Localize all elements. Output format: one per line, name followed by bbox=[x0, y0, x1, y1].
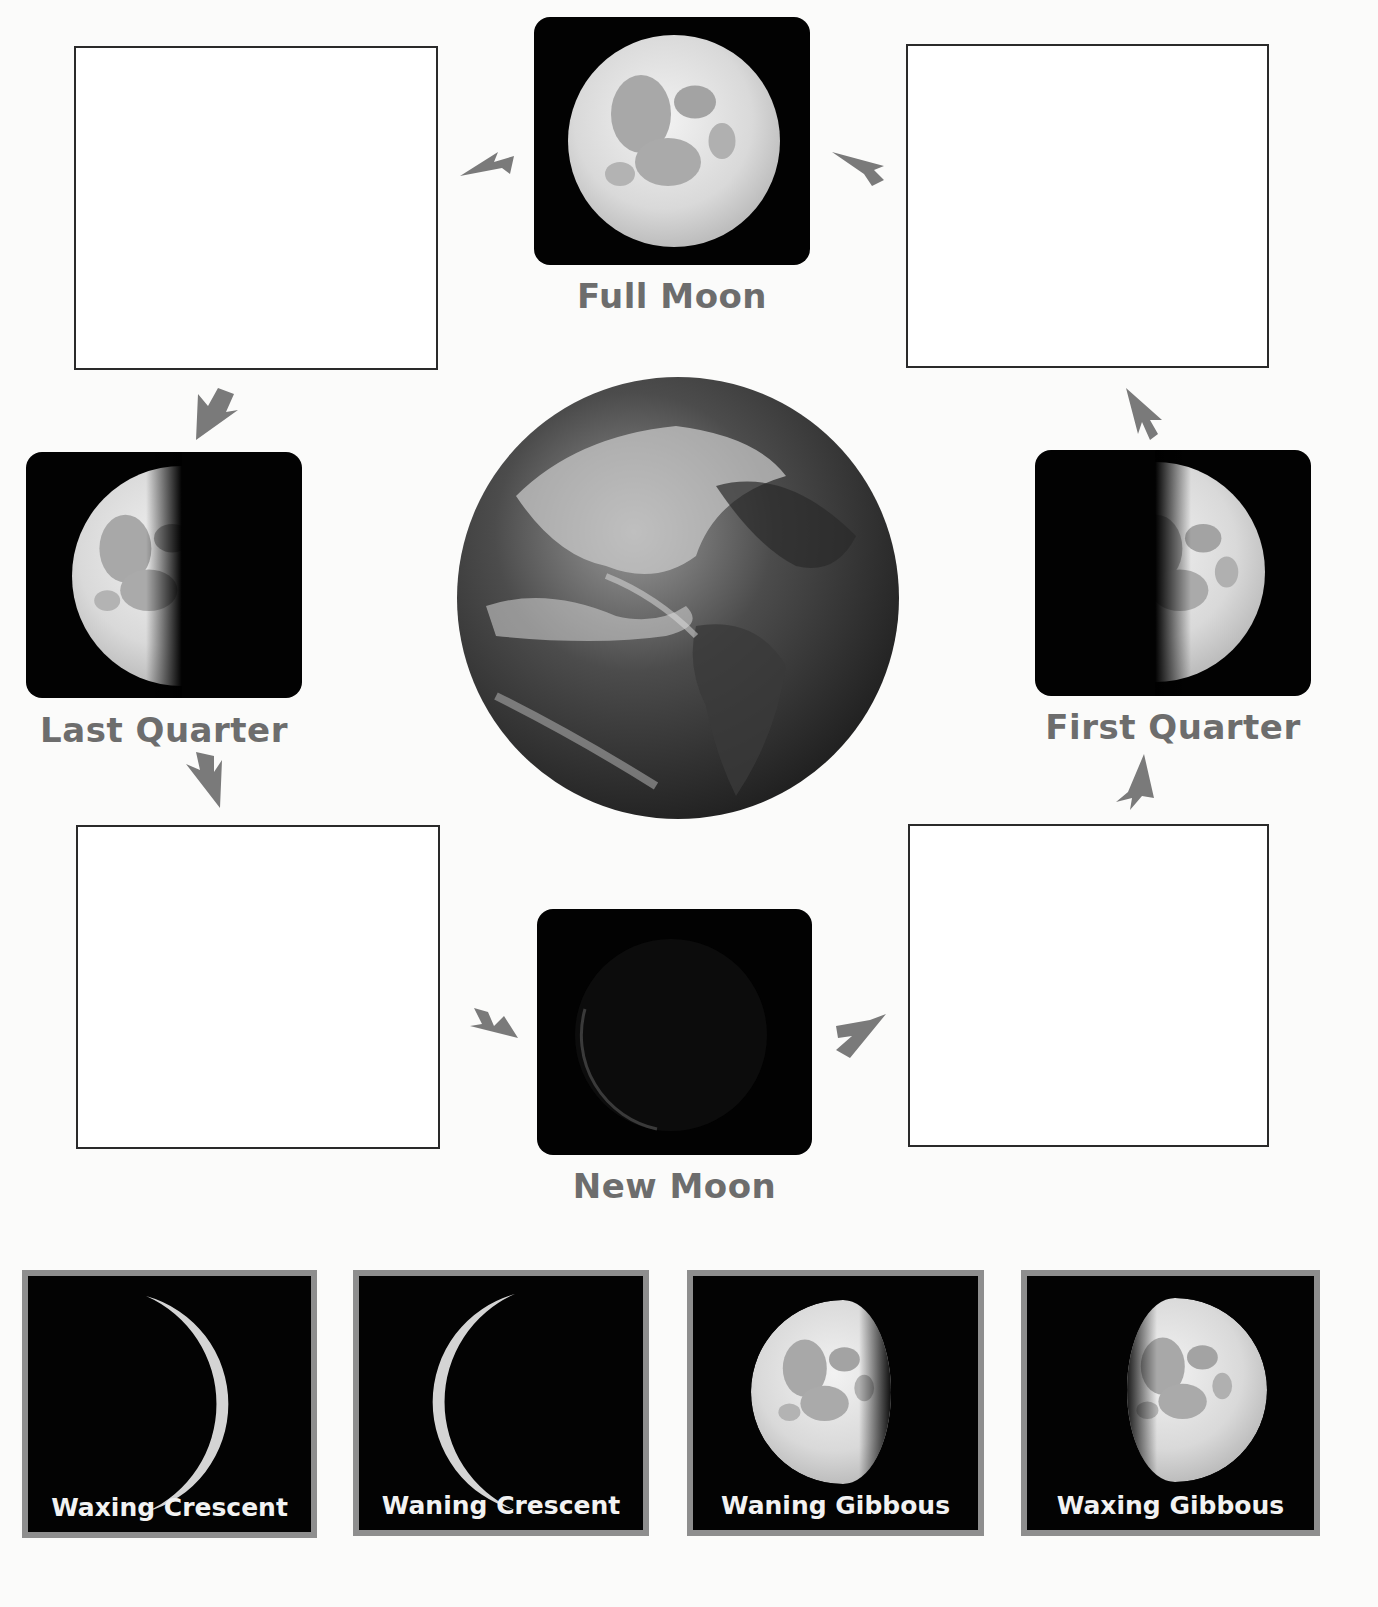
arrow-bottomright-to-firstquarter-icon bbox=[1108, 752, 1168, 812]
arrow-bottomleft-to-newmoon-icon bbox=[460, 1002, 520, 1062]
answer-card-label: Waxing Gibbous bbox=[1027, 1491, 1314, 1520]
full-moon-icon bbox=[534, 17, 810, 265]
new-moon-card bbox=[537, 909, 812, 1155]
answer-card-waxing-crescent[interactable]: Waxing Crescent bbox=[22, 1270, 317, 1538]
answer-card-label: Waning Gibbous bbox=[693, 1491, 978, 1520]
answer-card-label: Waxing Crescent bbox=[28, 1493, 311, 1522]
answer-card-waxing-gibbous[interactable]: Waxing Gibbous bbox=[1021, 1270, 1320, 1536]
blank-box-bottom-left[interactable] bbox=[76, 825, 440, 1149]
first-quarter-card bbox=[1035, 450, 1311, 696]
answer-card-label: Waning Crescent bbox=[359, 1491, 643, 1520]
new-moon-icon bbox=[537, 909, 812, 1155]
blank-box-bottom-right[interactable] bbox=[908, 824, 1269, 1147]
first-quarter-label: First Quarter bbox=[1035, 707, 1311, 747]
blank-box-top-left[interactable] bbox=[74, 46, 438, 370]
earth-image bbox=[456, 376, 900, 820]
arrow-lastquarter-to-bottomleft-icon bbox=[184, 750, 244, 810]
answer-card-waning-gibbous[interactable]: Waning Gibbous bbox=[687, 1270, 984, 1536]
earth-icon bbox=[456, 376, 900, 820]
last-quarter-moon-icon bbox=[26, 452, 302, 698]
arrow-newmoon-to-bottomright-icon bbox=[830, 1010, 890, 1070]
last-quarter-label: Last Quarter bbox=[26, 710, 302, 750]
answer-card-waning-crescent[interactable]: Waning Crescent bbox=[353, 1270, 649, 1536]
arrow-topleft-to-lastquarter-icon bbox=[190, 382, 250, 442]
arrow-firstquarter-to-topright-icon bbox=[1118, 384, 1178, 444]
first-quarter-moon-icon bbox=[1035, 450, 1311, 696]
new-moon-label: New Moon bbox=[537, 1166, 812, 1206]
arrow-topright-to-full-icon bbox=[828, 146, 888, 206]
full-moon-card bbox=[534, 17, 810, 265]
blank-box-top-right[interactable] bbox=[906, 44, 1269, 368]
full-moon-label: Full Moon bbox=[534, 276, 810, 316]
last-quarter-card bbox=[26, 452, 302, 698]
arrow-full-to-topleft-icon bbox=[458, 140, 518, 200]
